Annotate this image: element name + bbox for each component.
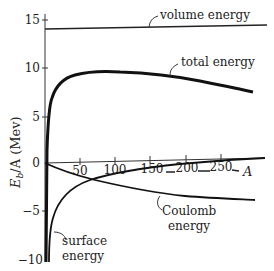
volume-energy-pointer xyxy=(149,16,158,27)
y-tick-0: 0 xyxy=(32,156,40,170)
total-energy-label: total energy xyxy=(181,55,255,69)
x-tick-250: 250 xyxy=(210,160,233,174)
x-axis-label: A xyxy=(242,164,252,179)
surface-energy-label-1: surface xyxy=(62,234,107,248)
y-tick-15: 15 xyxy=(25,13,40,27)
y-axis-label: Eb/A (Mev) xyxy=(8,116,25,189)
total-energy-pointer xyxy=(170,64,178,76)
volume-energy-line xyxy=(45,25,267,29)
x-tick-labels: 50 100 150 200 250 xyxy=(72,160,232,178)
volume-energy-label: volume energy xyxy=(159,8,250,22)
coulomb-energy-label-1: Coulomb xyxy=(162,204,217,218)
surface-energy-label-2: energy xyxy=(62,249,104,263)
binding-energy-chart: 15 10 5 0 −5 −10 50 100 150 200 250 A Eb… xyxy=(0,0,274,271)
y-tick-m5: −5 xyxy=(22,204,40,218)
y-tick-m10: −10 xyxy=(18,253,43,267)
coulomb-energy-label-2: energy xyxy=(168,219,210,233)
y-tick-5: 5 xyxy=(32,110,40,124)
y-tick-10: 10 xyxy=(25,61,40,75)
